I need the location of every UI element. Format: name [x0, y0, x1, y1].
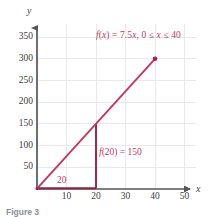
run-label: 20	[57, 176, 67, 186]
y-tick-label-350: 350	[19, 32, 33, 42]
figure-container: 50 100 150 200 250 300 350 10 20 30 40 5…	[0, 0, 209, 217]
value-label-rest: (20) = 150	[102, 147, 142, 157]
y-axis-label: y	[27, 6, 31, 16]
function-label-tail: ≤ 40	[161, 30, 181, 40]
function-label: f(x) = 7.5x, 0 ≤ x ≤ 40	[96, 31, 181, 41]
y-tick-label-100: 100	[19, 141, 33, 151]
x-tick-label-40: 40	[150, 192, 160, 202]
function-label-comma: , 0 ≤	[137, 30, 157, 40]
function-label-equals: = 7.5	[110, 30, 133, 40]
x-tick-label-10: 10	[62, 192, 72, 202]
y-tick-label-200: 200	[19, 97, 33, 107]
value-label: f(20) = 150	[99, 148, 142, 158]
y-tick-label-50: 50	[24, 163, 34, 173]
y-tick-label-250: 250	[19, 76, 33, 86]
y-tick-label-300: 300	[19, 54, 33, 64]
x-tick-label-20: 20	[91, 192, 101, 202]
x-tick-label-50: 50	[180, 192, 190, 202]
origin-marker	[35, 187, 38, 190]
x-tick-label-30: 30	[121, 192, 131, 202]
x-axis-label: x	[196, 184, 200, 194]
endpoint-marker	[153, 57, 158, 62]
plot-area: 50 100 150 200 250 300 350 10 20 30 40 5…	[0, 0, 209, 217]
y-tick-label-150: 150	[19, 119, 33, 129]
figure-caption: Figure 3	[6, 208, 39, 217]
